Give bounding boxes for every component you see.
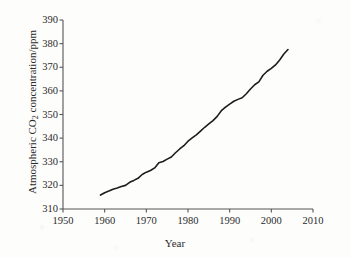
x-axis-title: Year xyxy=(0,237,350,249)
y-axis-title: Atmospheric CO2 concentration/ppm xyxy=(26,17,38,207)
x-axis-tick-label: 1980 xyxy=(168,216,208,227)
y-axis-title-suffix: concentration/ppm xyxy=(26,30,38,115)
y-axis-title-subscript: 2 xyxy=(31,115,40,119)
x-axis-tick-label: 1990 xyxy=(210,216,250,227)
co2-concentration-chart: 310320330340350360370380390 195019601970… xyxy=(0,0,350,258)
x-axis-tick-label: 1970 xyxy=(126,216,166,227)
x-axis-tick-label: 2000 xyxy=(251,216,291,227)
co2-data-line xyxy=(101,50,289,196)
x-axis-tick-label: 1950 xyxy=(43,216,83,227)
x-axis-tick-label: 2010 xyxy=(293,216,333,227)
x-axis-tick-label: 1960 xyxy=(85,216,125,227)
y-axis-title-prefix: Atmospheric CO xyxy=(26,119,38,194)
